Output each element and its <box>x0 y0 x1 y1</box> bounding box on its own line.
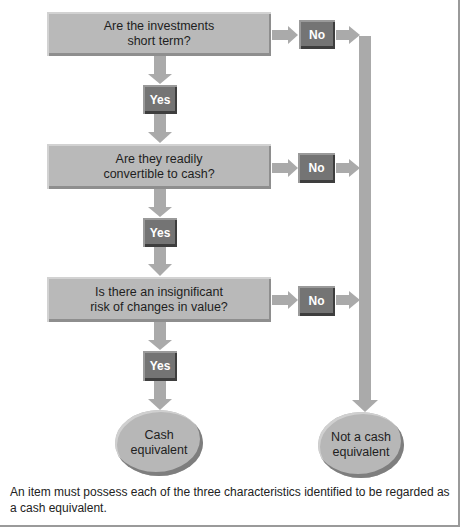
question-text: Is there an insignificant <box>90 285 228 300</box>
question-box-convertible: Are they readily convertible to cash? <box>47 144 271 189</box>
question-text: short term? <box>104 34 214 49</box>
question-text: Are they readily <box>103 152 214 167</box>
outcome-text: equivalent <box>331 445 391 460</box>
question-box-short-term: Are the investments short term? <box>47 12 271 56</box>
figure-caption: An item must possess each of the three c… <box>10 484 450 516</box>
yes-badge-1: Yes <box>143 85 177 114</box>
outcome-cash-equivalent: Cash equivalent <box>115 410 203 476</box>
question-text: Are the investments <box>104 19 214 34</box>
question-box-risk: Is there an insignificant risk of change… <box>47 277 271 322</box>
no-badge-2: No <box>298 153 335 183</box>
no-badge-1: No <box>299 20 335 49</box>
outcome-text: equivalent <box>131 443 188 458</box>
question-text: risk of changes in value? <box>90 300 228 315</box>
outcome-not-cash-equivalent: Not a cash equivalent <box>318 412 404 478</box>
no-badge-3: No <box>298 286 335 316</box>
outcome-text: Cash <box>131 428 188 443</box>
outcome-text: Not a cash <box>331 430 391 445</box>
yes-badge-3: Yes <box>143 351 177 381</box>
yes-badge-2: Yes <box>143 218 177 247</box>
question-text: convertible to cash? <box>103 167 214 182</box>
